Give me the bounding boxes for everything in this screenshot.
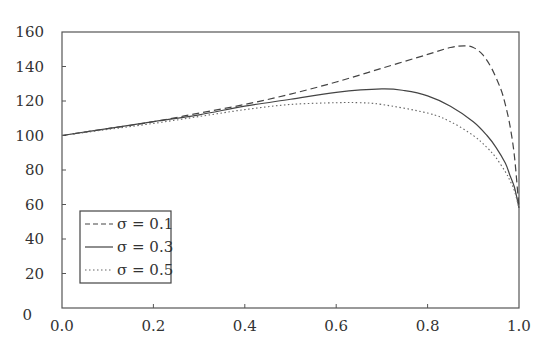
- x-axis: 0.00.20.40.60.81.0: [50, 304, 531, 335]
- line-chart: 020406080100120140160 0.00.20.40.60.81.0…: [0, 0, 552, 360]
- y-tick-label: 100: [15, 127, 44, 145]
- legend: σ = 0.1σ = 0.3σ = 0.5: [80, 211, 173, 283]
- y-tick-label: 120: [15, 92, 44, 110]
- series-line-3: [62, 103, 519, 208]
- x-tick-label: 1.0: [507, 317, 531, 335]
- x-tick-label: 0.0: [50, 317, 74, 335]
- x-tick-label: 0.4: [233, 317, 257, 335]
- y-tick-label: 60: [25, 196, 44, 214]
- y-tick-label: 40: [25, 230, 44, 248]
- x-tick-label: 0.6: [324, 317, 348, 335]
- y-tick-label: 80: [25, 161, 44, 179]
- legend-label: σ = 0.1: [117, 215, 173, 233]
- x-tick-label: 0.8: [416, 317, 440, 335]
- legend-label: σ = 0.3: [117, 238, 173, 256]
- x-tick-label: 0.2: [141, 317, 165, 335]
- y-tick-label: 20: [25, 265, 44, 283]
- legend-label: σ = 0.5: [117, 261, 173, 279]
- series-lines: [62, 46, 519, 208]
- y-tick-label: 0: [22, 306, 32, 324]
- y-axis: 020406080100120140160: [15, 23, 66, 324]
- y-tick-label: 160: [15, 23, 44, 41]
- series-line-2: [62, 89, 519, 208]
- y-tick-label: 140: [15, 58, 44, 76]
